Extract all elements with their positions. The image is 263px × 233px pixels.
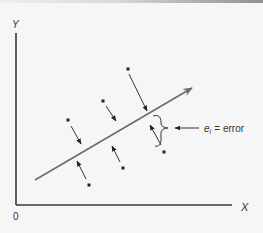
data-point <box>127 68 130 71</box>
regression-diagram: Y X 0 ei=error <box>0 0 263 233</box>
error-text: error <box>223 123 245 134</box>
origin-label: 0 <box>13 211 19 222</box>
x-axis-label: X <box>240 201 249 213</box>
error-brace <box>153 115 168 146</box>
data-point <box>67 119 70 122</box>
data-points <box>67 68 166 187</box>
equals-sign: = <box>214 123 220 134</box>
residual-arrow <box>77 161 86 179</box>
error-subscript: i <box>210 128 212 135</box>
y-axis-label: Y <box>12 19 20 30</box>
data-point <box>163 151 166 154</box>
data-point <box>88 184 91 187</box>
data-point <box>122 167 125 170</box>
axes <box>16 33 232 205</box>
residual-arrow <box>129 74 147 111</box>
regression-line <box>35 88 192 180</box>
residual-arrow <box>71 126 81 144</box>
residual-arrow <box>106 106 116 121</box>
residual-arrow <box>150 125 161 145</box>
error-label: ei=error <box>204 123 245 135</box>
data-point <box>102 100 105 103</box>
residual-arrow <box>112 146 120 162</box>
